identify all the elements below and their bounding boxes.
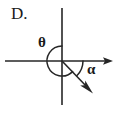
panel-letter-label: D. [11, 5, 28, 22]
terminal-ray-line [62, 61, 88, 88]
alpha-angle-label: α [87, 62, 95, 77]
theta-angle-label: θ [38, 35, 46, 50]
angle-diagram-figure: D. θ α [0, 0, 119, 113]
alpha-angle-arc [77, 61, 83, 76]
